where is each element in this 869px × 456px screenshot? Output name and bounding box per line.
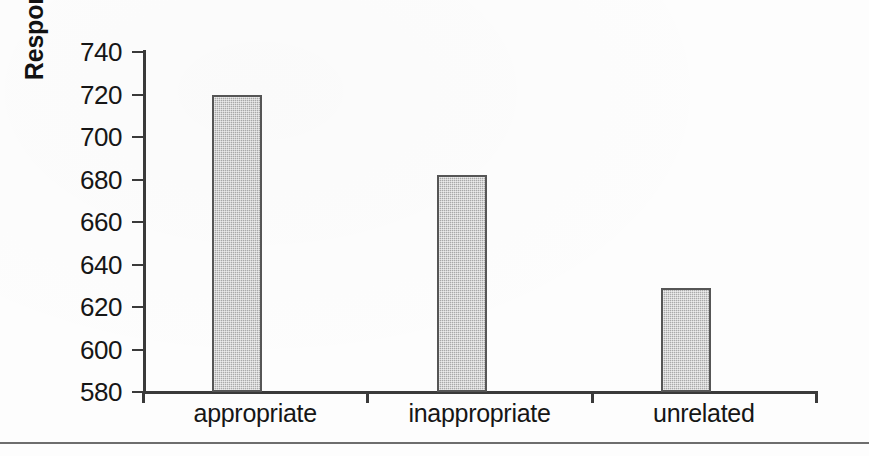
- y-tick-label: 740: [48, 37, 122, 68]
- y-tick-label: 600: [48, 334, 122, 365]
- y-tick-mark: [132, 349, 144, 351]
- page-separator-rule: [0, 442, 869, 444]
- y-tick-label: 580: [48, 377, 122, 408]
- y-tick-label: 620: [48, 292, 122, 323]
- x-tick-label: inappropriate: [367, 399, 591, 428]
- x-tick-label: unrelated: [592, 399, 816, 428]
- y-tick-mark: [132, 94, 144, 96]
- y-tick-label: 680: [48, 164, 122, 195]
- y-tick-mark: [132, 306, 144, 308]
- y-tick-label: 640: [48, 249, 122, 280]
- y-tick-mark: [132, 179, 144, 181]
- y-tick-mark: [132, 221, 144, 223]
- figure-container: Response Latencies (msec) 58060062064066…: [0, 0, 869, 456]
- y-tick-label: 660: [48, 207, 122, 238]
- bar: [661, 288, 711, 392]
- y-tick-mark: [132, 136, 144, 138]
- y-tick-mark: [132, 51, 144, 53]
- scan-tint-overlay: [0, 0, 869, 456]
- y-tick-mark: [132, 264, 144, 266]
- bar: [437, 175, 487, 392]
- y-tick-label: 720: [48, 79, 122, 110]
- x-tick-label: appropriate: [143, 399, 367, 428]
- y-tick-label: 700: [48, 122, 122, 153]
- bar: [212, 95, 262, 393]
